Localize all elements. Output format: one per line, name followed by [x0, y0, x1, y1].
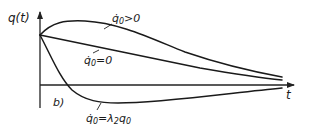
label-positive-main: q̇	[112, 12, 119, 25]
leader-lambda-velocity	[97, 103, 101, 110]
label-zero-velocity: q̇0=0	[84, 54, 112, 68]
label-positive-rest: >0	[124, 12, 140, 25]
panel-label: b)	[53, 96, 64, 109]
leader-zero-velocity	[93, 50, 99, 53]
label-lambda-sub3: 0	[126, 117, 131, 126]
label-zero-main: q̇	[84, 54, 91, 67]
diagram-canvas: q(t) t b) q̇0>0 q̇0=0 q̇0=λ2q0	[0, 0, 309, 134]
curve-positive-velocity	[40, 21, 282, 77]
label-lambda-velocity: q̇0=λ2q0	[86, 112, 131, 126]
x-axis-label: t	[286, 88, 292, 102]
label-positive-velocity: q̇0>0	[112, 12, 140, 26]
y-axis-label: q(t)	[8, 11, 30, 25]
label-lambda-rest: =λ	[98, 112, 114, 125]
label-lambda-main: q̇	[86, 112, 93, 125]
label-lambda-rest2: q	[119, 112, 126, 125]
label-zero-rest: =0	[96, 54, 112, 67]
